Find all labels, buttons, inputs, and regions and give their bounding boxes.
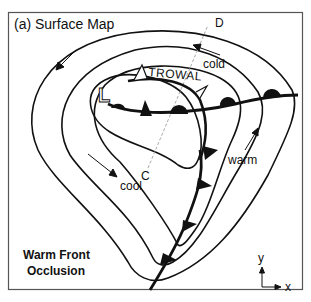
axis-label-y: y	[258, 251, 264, 265]
axes-indicator	[260, 267, 282, 290]
trowal-line	[128, 79, 206, 160]
isobar-3	[94, 66, 240, 246]
low-pressure-symbol: L	[98, 84, 110, 106]
svg-text:L: L	[98, 84, 110, 106]
y-arrow-icon	[260, 267, 265, 273]
region-label-cold: cold	[203, 57, 225, 71]
section-label-c: C	[141, 169, 150, 183]
region-label-cool: cool	[120, 179, 142, 193]
x-arrow-icon	[275, 285, 281, 290]
section-label-d: D	[215, 16, 224, 30]
caption-line-1: Warm Front	[23, 248, 90, 262]
region-label-warm: warm	[227, 153, 257, 167]
caption-line-2: Occlusion	[27, 264, 85, 278]
panel-title: (a) Surface Map	[14, 16, 115, 32]
trowal-label: TROWAL	[148, 65, 203, 84]
surface-map-diagram: (a) Surface Map C D TROWAL L	[0, 0, 311, 302]
axis-label-x: x	[285, 280, 291, 294]
